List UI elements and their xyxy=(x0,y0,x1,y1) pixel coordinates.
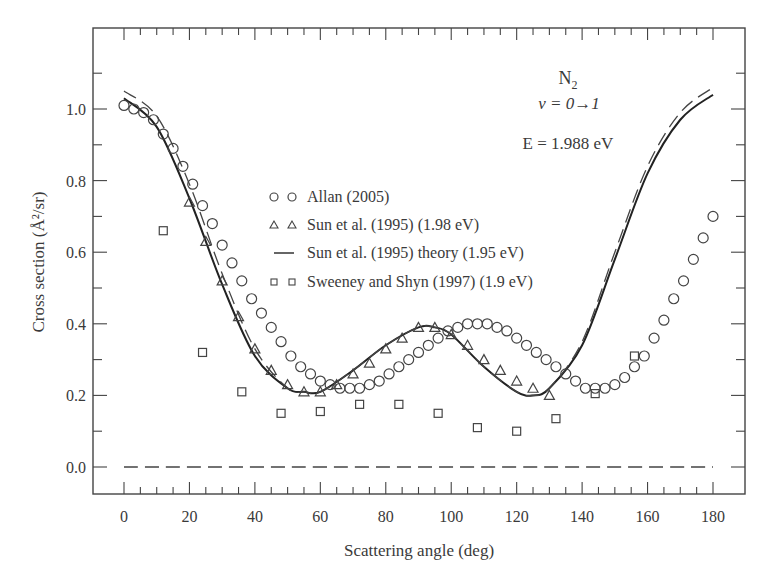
x-tick-label: 140 xyxy=(570,508,594,525)
circle-marker xyxy=(708,211,718,221)
circle-marker xyxy=(404,355,414,365)
x-tick-label: 120 xyxy=(505,508,529,525)
x-tick-label: 160 xyxy=(636,508,660,525)
y-axis-label: Cross section (Å²/sr) xyxy=(29,191,48,332)
y-tick-label: 1.0 xyxy=(66,101,86,118)
circle-marker xyxy=(276,337,286,347)
chart: 0204060801001201401601800.00.20.40.60.81… xyxy=(0,0,769,581)
circle-marker xyxy=(541,355,551,365)
circle-marker xyxy=(364,380,374,390)
legend-circle-icon xyxy=(270,193,278,201)
legend-label: Allan (2005) xyxy=(307,188,389,206)
circle-marker xyxy=(659,315,669,325)
triangle-marker xyxy=(512,376,522,385)
molecule-label: N2 xyxy=(559,68,578,92)
circle-marker xyxy=(414,347,424,357)
circle-marker xyxy=(698,233,708,243)
square-marker xyxy=(356,400,364,408)
legend-square-icon xyxy=(289,279,295,285)
cross-section-plot: 0204060801001201401601800.00.20.40.60.81… xyxy=(0,0,769,581)
circle-marker xyxy=(198,201,208,211)
circle-marker xyxy=(207,219,217,229)
circle-marker xyxy=(600,383,610,393)
square-marker xyxy=(199,348,207,356)
circle-marker xyxy=(315,376,325,386)
x-tick-label: 60 xyxy=(312,508,328,525)
circle-marker xyxy=(345,383,355,393)
circle-marker xyxy=(384,369,394,379)
energy-label: E = 1.988 eV xyxy=(523,134,615,153)
circle-marker xyxy=(256,308,266,318)
circle-marker xyxy=(453,322,463,332)
plot-border xyxy=(93,28,745,494)
circle-marker xyxy=(237,276,247,286)
circle-marker xyxy=(463,319,473,329)
circle-marker xyxy=(620,373,630,383)
triangle-marker xyxy=(495,365,505,374)
legend-triangle-icon xyxy=(270,221,278,228)
legend-label: Sweeney and Shyn (1997) (1.9 eV) xyxy=(307,273,533,291)
y-tick-label: 0.8 xyxy=(66,173,86,190)
circle-marker xyxy=(502,326,512,336)
circle-marker xyxy=(512,333,522,343)
legend-square-icon xyxy=(271,279,277,285)
circle-marker xyxy=(492,322,502,332)
x-tick-label: 180 xyxy=(701,508,725,525)
circle-marker xyxy=(679,276,689,286)
square-marker xyxy=(513,427,521,435)
legend-circle-icon xyxy=(288,193,296,201)
circle-marker xyxy=(521,340,531,350)
circle-marker xyxy=(394,362,404,372)
circle-marker xyxy=(482,319,492,329)
circle-marker xyxy=(669,294,679,304)
circle-marker xyxy=(639,351,649,361)
y-tick-label: 0.6 xyxy=(66,244,86,261)
dashed-curve xyxy=(124,88,713,396)
circle-marker xyxy=(688,254,698,264)
transition-label: ν = 0→1 xyxy=(538,94,600,113)
circle-marker xyxy=(649,333,659,343)
legend-label: Sun et al. (1995) theory (1.95 eV) xyxy=(307,244,524,262)
circle-marker xyxy=(266,322,276,332)
square-marker xyxy=(630,352,638,360)
circle-marker xyxy=(610,380,620,390)
circle-marker xyxy=(571,376,581,386)
circle-marker xyxy=(433,333,443,343)
circle-marker xyxy=(217,240,227,250)
circle-marker xyxy=(551,362,561,372)
y-tick-label: 0.4 xyxy=(66,316,86,333)
annotations: N2 ν = 0→1 E = 1.988 eV xyxy=(523,68,615,153)
circle-marker xyxy=(286,351,296,361)
x-tick-label: 40 xyxy=(247,508,263,525)
circle-marker xyxy=(296,362,306,372)
x-axis-label: Scattering angle (deg) xyxy=(344,541,494,560)
circle-marker xyxy=(355,383,365,393)
legend: Allan (2005)Sun et al. (1995) (1.98 eV)S… xyxy=(270,188,533,291)
x-tick-label: 100 xyxy=(439,508,463,525)
data-markers xyxy=(119,100,718,435)
x-tick-label: 20 xyxy=(181,508,197,525)
square-marker xyxy=(238,388,246,396)
circle-marker xyxy=(247,294,257,304)
legend-label: Sun et al. (1995) (1.98 eV) xyxy=(307,216,479,234)
circle-marker xyxy=(306,369,316,379)
square-marker xyxy=(395,400,403,408)
square-marker xyxy=(552,415,560,423)
legend-triangle-icon xyxy=(288,221,296,228)
square-marker xyxy=(159,227,167,235)
circle-marker xyxy=(531,347,541,357)
triangle-marker xyxy=(528,383,538,392)
circle-marker xyxy=(423,340,433,350)
circle-marker xyxy=(374,376,384,386)
x-tick-label: 80 xyxy=(378,508,394,525)
square-marker xyxy=(473,424,481,432)
y-tick-label: 0.2 xyxy=(66,387,86,404)
square-marker xyxy=(277,409,285,417)
square-marker xyxy=(434,409,442,417)
square-marker xyxy=(316,408,324,416)
circle-marker xyxy=(472,319,482,329)
circle-marker xyxy=(580,383,590,393)
circle-marker xyxy=(119,100,129,110)
y-tick-label: 0.0 xyxy=(66,459,86,476)
x-tick-label: 0 xyxy=(120,508,128,525)
